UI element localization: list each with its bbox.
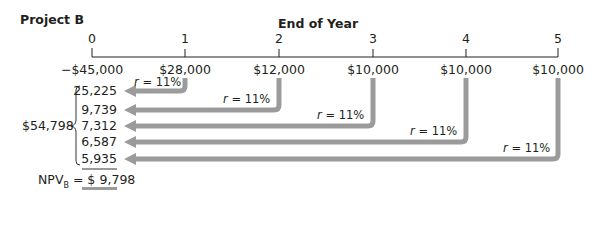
year-label: 4	[462, 31, 470, 46]
year-label: 2	[275, 31, 283, 46]
axis-ticks	[92, 48, 558, 57]
year-label: 0	[88, 31, 96, 46]
present-value: 5,935	[57, 151, 117, 166]
pv-sum: $54,798	[22, 118, 74, 133]
rate-label: r = 11%	[134, 75, 181, 89]
rate-label: r = 11%	[503, 141, 550, 155]
rate-label: r = 11%	[317, 108, 364, 122]
cash-flow: $12,000	[253, 62, 305, 77]
present-value: 25,225	[57, 83, 117, 98]
cash-flow: $10,000	[440, 62, 492, 77]
rate-label: r = 11%	[223, 92, 270, 106]
year-label: 1	[181, 31, 189, 46]
year-label: 3	[369, 31, 377, 46]
cash-flow: $10,000	[347, 62, 399, 77]
cash-flow: $10,000	[532, 62, 584, 77]
present-value: 9,739	[57, 102, 117, 117]
npv-label: NPV	[38, 172, 63, 187]
year-label: 5	[554, 31, 562, 46]
npv-value: 9,798	[95, 172, 135, 187]
cash-flow: −$45,000	[61, 62, 123, 77]
npv-line: NPVB = $9,798	[38, 172, 135, 190]
rate-label: r = 11%	[410, 124, 457, 138]
present-value: 6,587	[57, 134, 117, 149]
arrowheads	[124, 85, 136, 165]
